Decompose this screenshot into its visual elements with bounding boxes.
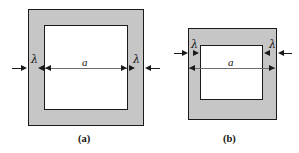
arrow-a-inner-right-b xyxy=(269,65,275,71)
panel-a: a λ λ (a) xyxy=(0,0,165,153)
label-a-inner-width: a xyxy=(82,57,88,68)
arrow-a-inner-left-b xyxy=(189,65,195,71)
panel-b: λ λ a (b) xyxy=(165,0,299,153)
figure-root: a λ λ (a) λ λ a xyxy=(0,0,299,153)
arrow-lambda-right-outer-a xyxy=(145,65,151,71)
stub-lambda-right-b xyxy=(284,53,292,54)
arrow-lambda-left-outer-b xyxy=(182,50,188,56)
label-lambda-left-a: λ xyxy=(31,54,38,65)
dimension-line-a-inner-b xyxy=(189,68,275,69)
label-lambda-left-b: λ xyxy=(191,39,198,50)
label-lambda-right-a: λ xyxy=(133,54,140,65)
stub-lambda-left-a xyxy=(12,68,21,69)
label-lambda-right-b: λ xyxy=(269,39,276,50)
caption-a: (a) xyxy=(78,134,90,145)
caption-b: (b) xyxy=(223,134,236,145)
arrow-a-inner-right xyxy=(121,65,127,71)
arrow-lambda-left-outer-a xyxy=(21,65,27,71)
inner-square-b xyxy=(200,45,263,100)
stub-lambda-right-a xyxy=(151,68,160,69)
arrow-lambda-left-inner-a xyxy=(38,65,44,71)
stub-lambda-left-b xyxy=(174,53,182,54)
arrow-a-inner-left xyxy=(45,65,51,71)
label-a-inner-width-b: a xyxy=(228,57,234,68)
dimension-line-a-inner xyxy=(45,68,127,69)
